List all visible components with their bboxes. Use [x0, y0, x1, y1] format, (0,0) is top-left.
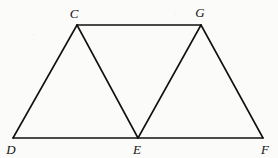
- segments-group: [13, 25, 263, 138]
- figure-canvas: [0, 0, 278, 158]
- geometry-figure: C G D E F: [0, 0, 278, 158]
- segment-EG: [138, 25, 201, 138]
- vertex-label-G: G: [195, 6, 204, 19]
- vertex-label-F: F: [261, 143, 269, 156]
- segment-DC: [13, 25, 77, 138]
- segment-CE: [77, 25, 138, 138]
- vertex-label-D: D: [6, 143, 15, 156]
- vertex-label-C: C: [70, 7, 79, 20]
- vertex-label-E: E: [133, 143, 141, 156]
- segment-GF: [201, 25, 263, 138]
